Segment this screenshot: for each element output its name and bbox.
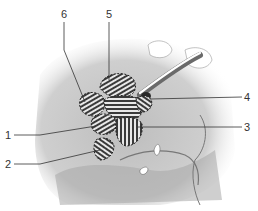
anatomical-figure: 6 5 4 3 1 2	[0, 0, 258, 211]
callout-label-6: 6	[61, 9, 67, 20]
callout-label-4: 4	[244, 92, 250, 103]
region-1	[91, 114, 116, 134]
callout-label-3: 3	[244, 122, 250, 133]
region-6	[80, 93, 105, 116]
illustration-canvas	[0, 0, 258, 211]
callout-label-1: 1	[5, 130, 11, 141]
callout-label-2: 2	[5, 159, 11, 170]
callout-label-5: 5	[106, 9, 112, 20]
